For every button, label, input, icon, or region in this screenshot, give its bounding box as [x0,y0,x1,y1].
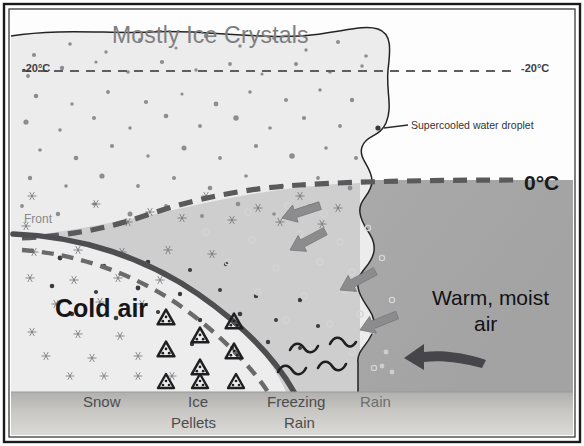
ground-band [11,392,573,435]
supercooled-droplet-marker [375,125,380,130]
precipitation-cross-section-svg [0,0,584,446]
diagram-canvas: Mostly Ice Crystals -20°C -20°C 0°C Supe… [0,0,584,446]
